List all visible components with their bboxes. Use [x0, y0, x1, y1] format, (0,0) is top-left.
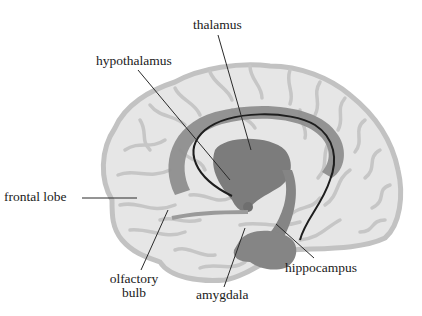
hypothalamus-label: hypothalamus	[96, 54, 172, 68]
brain-diagram: thalamus hypothalamus frontal lobe olfac…	[0, 0, 422, 316]
amygdala-label: amygdala	[196, 288, 248, 302]
hippocampus-label: hippocampus	[285, 261, 357, 275]
olfactory-bulb-label-line1: olfactory	[104, 272, 164, 286]
brain-illustration	[0, 0, 422, 316]
olfactory-bulb-label-line2: bulb	[104, 286, 164, 300]
frontal-lobe-label: frontal lobe	[4, 190, 67, 204]
olfactory-bulb-label: olfactory bulb	[104, 272, 164, 300]
thalamus-label: thalamus	[193, 18, 242, 32]
